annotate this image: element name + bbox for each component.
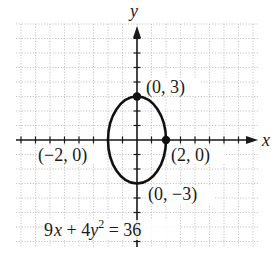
- y-axis-label: y: [128, 1, 138, 21]
- label-point-2-0: (2, 0): [171, 145, 210, 166]
- y-axis: [133, 26, 141, 247]
- x-axis-label: x: [261, 130, 270, 150]
- point-2-0-marker: [162, 136, 170, 144]
- equation-var-x: x: [53, 220, 62, 240]
- equation-var-y: y: [88, 220, 98, 240]
- label-point-0-3: (0, 3): [146, 77, 185, 98]
- y-axis-arrow-icon: [133, 26, 141, 38]
- equation: 9x + 4y2 = 36: [44, 217, 141, 240]
- equation-rhs: = 36: [104, 220, 141, 240]
- x-axis-arrow-icon: [246, 136, 258, 144]
- equation-coef: 9: [44, 220, 53, 240]
- equation-plus-term: + 4: [62, 220, 90, 240]
- label-point-0-neg3: (0, −3): [148, 184, 197, 205]
- point-0-3-marker: [133, 92, 141, 100]
- ellipse-figure: y x (0, 3) (2, 0) (−2, 0) (0, −3) 9x + 4…: [0, 0, 276, 257]
- graph-canvas: y x (0, 3) (2, 0) (−2, 0) (0, −3) 9x + 4…: [0, 0, 276, 257]
- svg-text:9x + 4y2 = 36: 9x + 4y2 = 36: [44, 217, 141, 240]
- label-point-neg2-0: (−2, 0): [38, 145, 87, 166]
